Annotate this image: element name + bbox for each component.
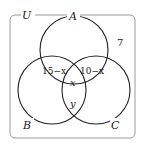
region-bc-value: y	[69, 98, 76, 109]
set-b-label: B	[22, 119, 31, 132]
venn-diagram: U A B C 7 15−x 10−x x y	[0, 0, 144, 144]
region-ab-value: 15−x	[42, 66, 66, 76]
set-c-label: C	[111, 119, 120, 132]
region-ac-value: 10−x	[80, 66, 104, 76]
universe-label: U	[22, 9, 32, 22]
region-outside-value: 7	[117, 37, 123, 48]
set-a-label: A	[68, 10, 77, 23]
region-abc-value: x	[70, 77, 76, 88]
